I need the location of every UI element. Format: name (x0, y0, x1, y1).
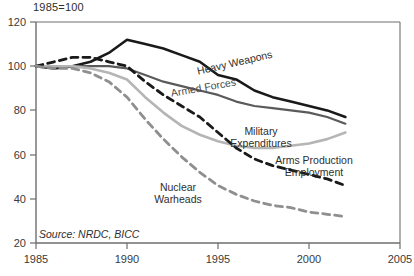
y-axis-label-20: 20 (2, 237, 26, 249)
x-axis-label-1985: 1985 (16, 253, 56, 265)
arms-production-label-line1: Arms Production (274, 155, 354, 167)
arms-production-label-line2: Employment (274, 167, 354, 179)
arms-production-label: Arms Production Employment (274, 155, 354, 179)
military-expenditures-label: Military Expenditures (222, 126, 300, 150)
y-axis-label-60: 60 (2, 149, 26, 161)
series-line-heavy-weapons (36, 40, 345, 117)
x-axis-label-1990: 1990 (107, 253, 147, 265)
military-expenditures-label-line2: Expenditures (222, 138, 300, 150)
y-axis-label-40: 40 (2, 193, 26, 205)
chart-container: 1985=100 120 100 80 60 40 20 1985 1 (0, 0, 414, 276)
y-axis-label-100: 100 (2, 60, 26, 72)
y-axis-ticks (30, 22, 36, 243)
military-expenditures-label-line1: Military (222, 126, 300, 138)
x-axis-label-2005: 2005 (380, 253, 414, 265)
nuclear-warheads-label-line2: Warheads (148, 194, 208, 206)
nuclear-warheads-label-line1: Nuclear (148, 182, 208, 194)
y-axis-label-80: 80 (2, 104, 26, 116)
x-axis-ticks (36, 243, 400, 249)
x-axis-label-2000: 2000 (289, 253, 329, 265)
y-axis-label-120: 120 (2, 16, 26, 28)
x-axis-label-1995: 1995 (198, 253, 238, 265)
source-note: Source: NRDC, BICC (39, 228, 139, 240)
nuclear-warheads-label: Nuclear Warheads (148, 182, 208, 206)
